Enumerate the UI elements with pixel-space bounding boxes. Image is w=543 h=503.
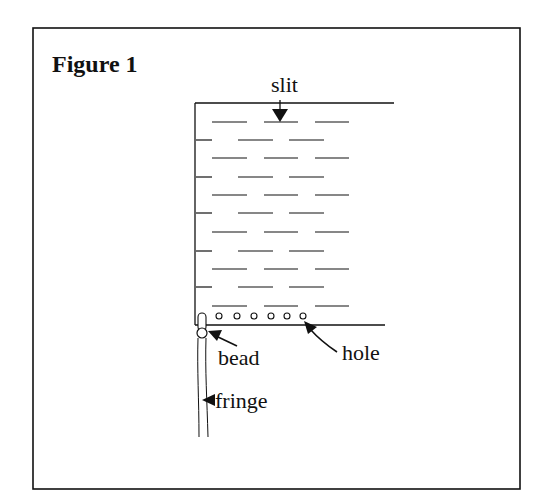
figure-diagram: Figure 1 slit bead hole fringe [0,0,543,503]
bead-icon [197,328,207,338]
hole [284,313,290,319]
fringe-strand [198,338,208,437]
hole [251,313,257,319]
figure-frame [33,28,520,489]
hole [268,313,274,319]
hole [216,313,222,319]
slit-rows [196,122,349,306]
fringe-arrow-icon [202,394,215,406]
label-hole: hole [342,340,380,365]
label-slit: slit [271,72,298,97]
bead-arrow-icon [208,330,237,346]
figure-title: Figure 1 [52,51,138,77]
label-fringe: fringe [215,388,268,413]
label-bead: bead [218,345,260,370]
leather-piece [195,103,394,325]
hole [234,313,240,319]
hole [300,313,306,319]
hole-row [216,313,306,319]
